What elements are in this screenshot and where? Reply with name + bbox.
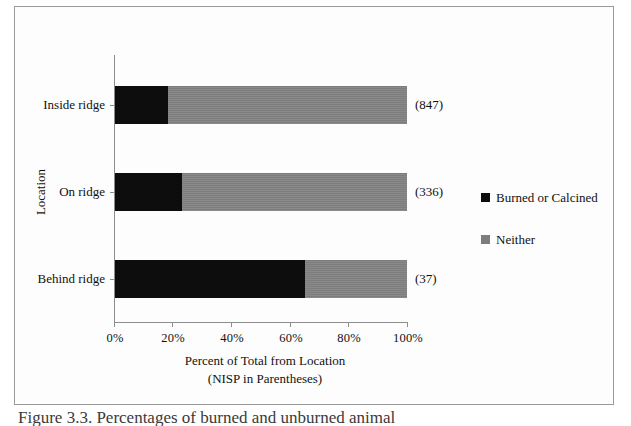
x-axis-title-line1: Percent of Total from Location [75, 352, 455, 370]
bar-segment-burned-behind-ridge[interactable] [115, 260, 305, 298]
x-tick-label-60: 60% [279, 331, 303, 346]
x-axis-tick [290, 322, 291, 327]
bar-row-inside-ridge[interactable]: Inside ridge (847) [115, 86, 407, 124]
y-category-label-on-ridge: On ridge [59, 184, 105, 200]
y-category-label-inside-ridge: Inside ridge [43, 97, 105, 113]
bar-row-on-ridge[interactable]: On ridge (336) [115, 173, 407, 211]
x-axis-tick [172, 322, 173, 327]
gray-square-swatch-icon [481, 235, 490, 244]
plot-area: 0% 20% 40% 60% 80% 100% Inside ridge (84… [115, 62, 407, 322]
bar-segment-burned-on-ridge[interactable] [115, 173, 182, 211]
x-axis-title-line2: (NISP in Parentheses) [75, 370, 455, 388]
x-axis-title: Percent of Total from Location (NISP in … [75, 352, 455, 388]
legend-label-neither: Neither [496, 232, 535, 248]
x-axis-tick [407, 322, 408, 327]
x-tick-label-40: 40% [220, 331, 244, 346]
x-axis-line [114, 322, 408, 323]
bar-segment-neither-inside-ridge[interactable] [168, 86, 407, 124]
figure-caption: Figure 3.3. Percentages of burned and un… [18, 408, 618, 426]
bar-row-behind-ridge[interactable]: Behind ridge (37) [115, 260, 407, 298]
bar-segment-burned-inside-ridge[interactable] [115, 86, 168, 124]
bar-value-label-on-ridge: (336) [415, 184, 443, 200]
y-category-label-behind-ridge: Behind ridge [37, 271, 105, 287]
figure-frame: Location 0% 20% 40% 60% 80% 100% Inside … [14, 6, 614, 405]
x-tick-label-20: 20% [161, 331, 185, 346]
x-tick-label-80: 80% [337, 331, 361, 346]
bar-segment-neither-on-ridge[interactable] [182, 173, 407, 211]
legend-label-burned-or-calcined: Burned or Calcined [496, 190, 598, 206]
chart-legend: Burned or Calcined Neither [481, 190, 606, 274]
legend-item-burned-or-calcined[interactable]: Burned or Calcined [481, 190, 606, 206]
black-square-swatch-icon [481, 193, 490, 202]
y-axis-title-text: Location [33, 169, 49, 215]
x-axis-tick [231, 322, 232, 327]
x-axis-tick [114, 322, 115, 327]
bar-value-label-inside-ridge: (847) [415, 97, 443, 113]
bar-value-label-behind-ridge: (37) [415, 271, 437, 287]
x-tick-label-100: 100% [393, 331, 423, 346]
x-axis-tick [348, 322, 349, 327]
bar-segment-neither-behind-ridge[interactable] [305, 260, 407, 298]
x-tick-label-0: 0% [106, 331, 123, 346]
legend-item-neither[interactable]: Neither [481, 232, 606, 248]
